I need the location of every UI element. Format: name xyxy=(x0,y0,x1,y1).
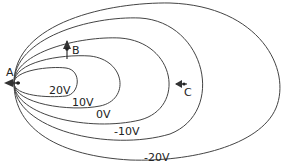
equipotential-line-minus20v xyxy=(14,3,280,160)
equipotential-line-10v xyxy=(14,56,120,108)
label-10v: 10V xyxy=(72,96,94,109)
point-a-dot xyxy=(16,81,20,85)
point-b-label: B xyxy=(72,44,80,57)
point-c: C xyxy=(175,80,192,99)
label-minus20v: -20V xyxy=(144,151,170,164)
equipotential-lines xyxy=(14,3,280,160)
equipotential-line-0v xyxy=(14,38,169,124)
label-0v: 0V xyxy=(96,108,111,121)
equipotential-diagram: 20V 10V 0V -10V -20V A B C xyxy=(0,0,288,166)
equipotential-line-minus10v xyxy=(14,18,203,140)
point-a-label: A xyxy=(6,66,14,79)
point-c-label: C xyxy=(184,86,192,99)
label-minus10v: -10V xyxy=(114,125,140,138)
label-20v: 20V xyxy=(49,84,71,97)
arrowhead-left-icon xyxy=(175,80,182,88)
arrowhead-left-icon xyxy=(4,79,13,87)
point-b-dot xyxy=(65,47,69,51)
